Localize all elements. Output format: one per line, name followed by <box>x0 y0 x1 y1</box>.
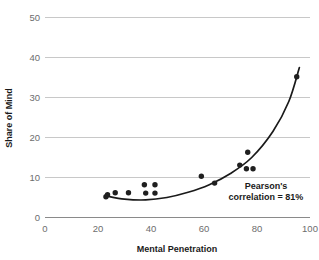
annotation-line-1: Pearson's <box>245 181 288 191</box>
annotation-line-2: correlation = 81% <box>229 192 304 202</box>
x-tick-label-60: 60 <box>199 223 210 234</box>
data-point <box>143 190 148 195</box>
data-point <box>152 190 157 195</box>
y-tick-label-20: 20 <box>29 132 40 143</box>
data-point <box>244 166 249 171</box>
data-point <box>294 74 299 79</box>
y-tick-label-40: 40 <box>29 52 40 63</box>
y-axis-title: Share of Mind <box>4 88 14 148</box>
y-tick-labels: 50 40 30 20 10 0 <box>29 12 40 223</box>
chart-container: 50 40 30 20 10 0 0 20 40 60 80 100 Menta… <box>0 0 319 260</box>
data-point <box>245 150 250 155</box>
gridlines <box>45 18 310 178</box>
data-point <box>105 192 110 197</box>
data-point <box>237 162 242 167</box>
x-tick-labels: 0 20 40 60 80 100 <box>42 223 318 234</box>
data-point <box>152 182 157 187</box>
data-point <box>126 190 131 195</box>
y-tick-label-0: 0 <box>35 212 40 223</box>
data-point <box>142 182 147 187</box>
data-point <box>212 180 217 185</box>
y-tick-label-50: 50 <box>29 12 40 23</box>
x-tick-label-20: 20 <box>93 223 104 234</box>
x-axis-title: Mental Penetration <box>137 244 218 254</box>
x-tick-label-100: 100 <box>302 223 318 234</box>
x-tick-label-0: 0 <box>42 223 47 234</box>
x-tick-label-80: 80 <box>252 223 263 234</box>
data-point <box>199 174 204 179</box>
y-tick-label-10: 10 <box>29 172 40 183</box>
data-point <box>250 166 255 171</box>
scatter-chart: 50 40 30 20 10 0 0 20 40 60 80 100 Menta… <box>0 0 319 260</box>
pearson-correlation-annotation: Pearson's correlation = 81% <box>229 181 304 202</box>
x-tick-label-40: 40 <box>146 223 157 234</box>
y-tick-label-30: 30 <box>29 92 40 103</box>
data-point <box>113 190 118 195</box>
